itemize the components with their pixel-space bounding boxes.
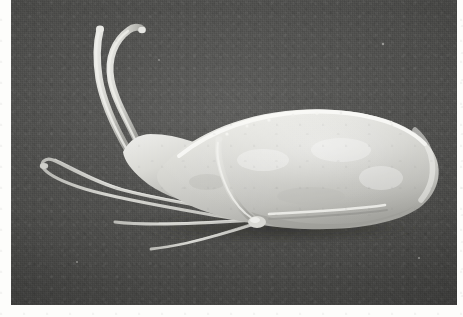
fleck: [76, 261, 78, 263]
mottle: [311, 138, 371, 162]
tentacle-1-tip: [96, 26, 104, 33]
mottle: [359, 166, 403, 190]
anterior-tentacle-group: [96, 26, 146, 152]
fleck: [158, 59, 160, 61]
mottle: [189, 174, 225, 190]
tentacle-2-tip: [138, 27, 146, 33]
papilla: [246, 125, 249, 128]
filament-1-tip-knob: [40, 163, 48, 169]
specimen-body: [123, 109, 439, 229]
papilla: [340, 112, 343, 115]
papilla: [267, 118, 270, 121]
figure-page: [0, 0, 463, 317]
micrograph-plate: [11, 0, 457, 305]
fleck: [382, 43, 384, 45]
specimen-illustration: [11, 0, 457, 305]
mottle: [237, 149, 289, 171]
fleck: [418, 257, 420, 259]
papilla: [292, 114, 295, 117]
page-margin-left: [0, 0, 11, 317]
papilla: [365, 114, 368, 117]
papilla: [315, 111, 319, 115]
page-margin-right: [457, 0, 463, 317]
papilla: [390, 121, 393, 124]
papilla: [225, 132, 228, 135]
mottle: [277, 187, 345, 205]
appendage-junction-highlight: [250, 217, 260, 223]
page-margin-bottom: [0, 305, 463, 317]
median-appendage-tip: [216, 136, 223, 142]
